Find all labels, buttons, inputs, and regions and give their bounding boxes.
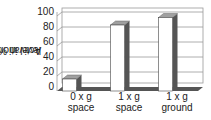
- grid-diag: [57, 72, 62, 76]
- x-label-1g-space: 1 x gspace: [109, 91, 149, 113]
- grid-diag: [57, 57, 62, 61]
- bar-side: [173, 14, 178, 92]
- bar-side: [125, 21, 130, 91]
- bar-2: [159, 18, 173, 92]
- x-label-0g-space: 0 x gspace: [61, 91, 101, 113]
- bar-1: [111, 25, 125, 91]
- grid-diag: [57, 42, 62, 46]
- grid-diag: [57, 12, 62, 16]
- bar-0: [63, 79, 77, 91]
- x-label-1g-ground: 1 x gground: [157, 91, 197, 113]
- grid-diag: [57, 27, 62, 31]
